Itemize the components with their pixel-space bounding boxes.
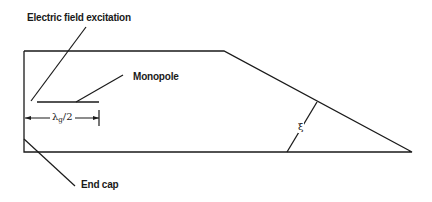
monopole-label: Monopole <box>133 72 179 82</box>
diagram-canvas: Electric field excitation Monopole End c… <box>0 0 432 202</box>
dimension-label: λg/2 <box>50 112 75 124</box>
endcap-leader-line <box>24 139 75 186</box>
endcap-label: End cap <box>81 180 119 190</box>
dimension-suffix: /2 <box>63 111 73 122</box>
excitation-label: Electric field excitation <box>27 13 131 23</box>
xi-label: ξ <box>298 121 304 133</box>
monopole-leader-line <box>76 75 123 102</box>
dimension-arrow-right-icon <box>93 116 99 120</box>
dimension-arrow-left-icon <box>25 116 31 120</box>
waveguide-diagram <box>0 0 432 202</box>
excitation-leader-line <box>31 27 86 101</box>
